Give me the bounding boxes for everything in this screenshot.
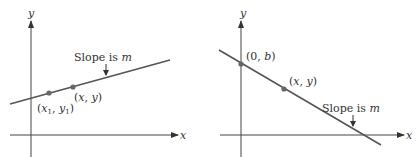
right-intercept-label: (0, b) <box>246 50 276 63</box>
right-point-x-y <box>281 86 286 91</box>
left-slope-label: Slope is m <box>74 51 132 64</box>
right-point-0-b <box>238 61 243 66</box>
right-x-axis-label: x <box>406 129 413 142</box>
right-slope-label: Slope is m <box>322 102 380 115</box>
right-y-axis-label: y <box>239 7 247 20</box>
left-point2-label: (x, y) <box>74 91 102 104</box>
left-graph: y x Slope is m (x1, y1) (x, y) <box>10 7 187 157</box>
left-y-axis-label: y <box>27 7 35 20</box>
left-x-axis-label: x <box>180 129 187 142</box>
right-point-label: (x, y) <box>289 75 317 88</box>
left-point-x-y <box>70 84 75 89</box>
slope-diagrams: y x Slope is m (x1, y1) (x, y) y x (0, b… <box>0 0 417 157</box>
left-point-x1-y1 <box>46 90 51 95</box>
left-point1-label: (x1, y1) <box>37 102 74 116</box>
right-graph: y x (0, b) (x, y) Slope is m <box>219 7 413 157</box>
